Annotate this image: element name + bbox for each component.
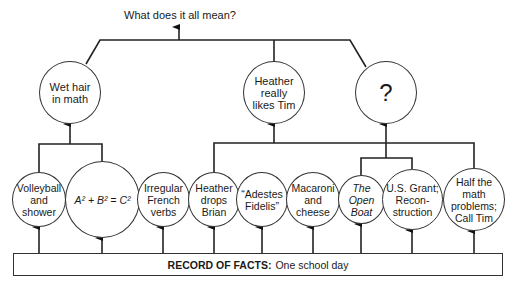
record-label: RECORD OF FACTS: bbox=[168, 259, 272, 271]
node-pythagoras: A² + B² = C² bbox=[65, 161, 140, 238]
node-label: Heather really likes Tim bbox=[253, 75, 296, 111]
node-heather-likes-tim: Heather really likes Tim bbox=[243, 61, 305, 124]
node-adestes-fidelis: “Adestes Fidelis” bbox=[236, 172, 288, 227]
node-question: ? bbox=[355, 61, 417, 124]
node-half-math: Half the math problems; Call Tim bbox=[443, 168, 505, 231]
node-wet-hair: Wet hair in math bbox=[39, 61, 101, 124]
node-volleyball: Volleyball and shower bbox=[12, 172, 66, 227]
node-label: The Open Boat bbox=[349, 182, 375, 218]
record-of-facts-box: RECORD OF FACTS: One school day bbox=[13, 253, 503, 276]
node-label: Heather drops Brian bbox=[195, 182, 232, 218]
node-label: Macaroni and cheese bbox=[291, 182, 334, 218]
node-label: A² + B² = C² bbox=[74, 194, 130, 206]
record-value: One school day bbox=[275, 259, 348, 271]
node-macaroni: Macaroni and cheese bbox=[286, 172, 340, 227]
node-label: Wet hair in math bbox=[50, 81, 91, 105]
connector-lines bbox=[0, 0, 517, 289]
node-label: “Adestes Fidelis” bbox=[241, 188, 282, 212]
diagram-title: What does it all mean? bbox=[80, 9, 280, 21]
node-french-verbs: Irregular French verbs bbox=[137, 172, 190, 227]
node-open-boat: The Open Boat bbox=[338, 175, 385, 224]
node-heather-drops-brian: Heather drops Brian bbox=[188, 172, 240, 227]
node-label: U.S. Grant; Recon- struction bbox=[386, 182, 439, 218]
node-label: ? bbox=[379, 87, 392, 99]
node-us-grant: U.S. Grant; Recon- struction bbox=[382, 169, 443, 230]
node-label: Volleyball and shower bbox=[17, 182, 61, 218]
node-label: Irregular French verbs bbox=[144, 182, 183, 218]
node-label: Half the math problems; Call Tim bbox=[451, 176, 497, 224]
